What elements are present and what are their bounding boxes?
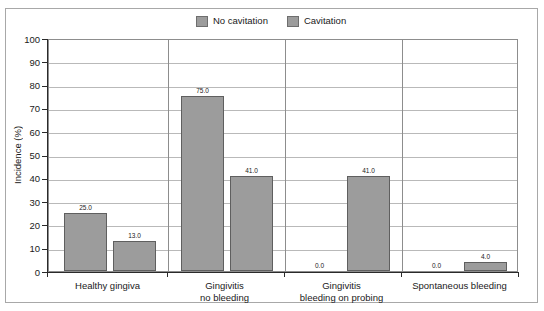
category-separator-1 (168, 40, 169, 271)
y-tick-label-20: 20 (29, 221, 40, 231)
y-tick-60 (42, 132, 47, 133)
x-category-label-gingivitis-no-bleeding: Gingivitis no bleeding (165, 280, 284, 303)
category-separator-3 (402, 40, 403, 271)
x-category-label-gingivitis-bleeding-on-probing: Gingivitis bleeding on probing (282, 280, 401, 303)
bar-label-gingivitis-no-bleeding-cavitation: 41.0 (230, 168, 273, 175)
x-category-label-line1: Gingivitis (165, 280, 284, 292)
y-tick-40 (42, 179, 47, 180)
bar-healthy-gingiva-no-cavitation (64, 213, 107, 271)
y-tick-label-60: 60 (29, 128, 40, 138)
legend-item-cavitation: Cavitation (287, 16, 346, 27)
y-axis-title: Incidence (%) (10, 112, 24, 198)
x-tick-2 (284, 272, 285, 277)
chart-legend: No cavitation Cavitation (196, 14, 346, 28)
category-separator-2 (285, 40, 286, 271)
x-axis-line (47, 272, 519, 273)
y-axis-line (47, 39, 48, 273)
gridline-90 (49, 63, 517, 64)
y-tick-10 (42, 249, 47, 250)
y-tick-label-70: 70 (29, 104, 40, 114)
x-tick-right (518, 272, 519, 277)
bar-label-gingivitis-no-bleeding-no-cavitation: 75.0 (181, 88, 224, 95)
bar-label-gingivitis-bleeding-no-cavitation: 0.0 (298, 263, 341, 270)
y-tick-100 (42, 39, 47, 40)
bar-label-gingivitis-bleeding-cavitation: 41.0 (347, 168, 390, 175)
legend-swatch-icon-no-cavitation (196, 16, 208, 27)
bar-gingivitis-no-bleeding-cavitation (230, 176, 273, 272)
gridline-50 (49, 157, 517, 158)
x-category-label-healthy-gingiva: Healthy gingiva (48, 280, 167, 292)
y-tick-label-30: 30 (29, 198, 40, 208)
y-tick-70 (42, 109, 47, 110)
plot-area: 25.0 13.0 75.0 41.0 0.0 41.0 0.0 4.0 (48, 39, 518, 272)
bar-label-healthy-gingiva-cavitation: 13.0 (113, 233, 156, 240)
x-category-label-line1: Spontaneous bleeding (399, 280, 520, 292)
bar-spontaneous-bleeding-cavitation (464, 262, 507, 271)
y-tick-label-90: 90 (29, 58, 40, 68)
bar-label-healthy-gingiva-no-cavitation: 25.0 (64, 205, 107, 212)
x-tick-3 (401, 272, 402, 277)
x-tick-left (47, 272, 48, 277)
bar-chart-figure: No cavitation Cavitation 25.0 13.0 75.0 … (0, 0, 544, 311)
gridline-70 (49, 110, 517, 111)
legend-label-no-cavitation: No cavitation (213, 16, 268, 26)
y-tick-label-40: 40 (29, 174, 40, 184)
y-tick-label-10: 10 (29, 244, 40, 254)
x-category-label-line2: no bleeding (165, 292, 284, 304)
y-tick-label-0: 0 (35, 268, 40, 278)
bar-label-spontaneous-bleeding-no-cavitation: 0.0 (415, 263, 458, 270)
legend-item-no-cavitation: No cavitation (196, 16, 268, 27)
gridline-20 (49, 226, 517, 227)
bar-gingivitis-bleeding-cavitation (347, 176, 390, 272)
legend-label-cavitation: Cavitation (304, 16, 346, 26)
bar-gingivitis-no-bleeding-no-cavitation (181, 96, 224, 271)
y-tick-30 (42, 202, 47, 203)
bar-healthy-gingiva-cavitation (113, 241, 156, 271)
x-category-label-spontaneous-bleeding: Spontaneous bleeding (399, 280, 520, 292)
x-category-label-line2: bleeding on probing (282, 292, 401, 304)
x-category-label-line1: Healthy gingiva (48, 280, 167, 292)
x-category-label-line1: Gingivitis (282, 280, 401, 292)
x-tick-1 (167, 272, 168, 277)
gridline-60 (49, 133, 517, 134)
y-tick-90 (42, 62, 47, 63)
y-tick-label-50: 50 (29, 151, 40, 161)
gridline-80 (49, 87, 517, 88)
gridline-40 (49, 180, 517, 181)
gridline-30 (49, 203, 517, 204)
y-tick-label-100: 100 (24, 35, 40, 45)
y-tick-20 (42, 225, 47, 226)
y-tick-50 (42, 156, 47, 157)
legend-swatch-icon-cavitation (287, 16, 299, 27)
y-tick-80 (42, 86, 47, 87)
bar-label-spontaneous-bleeding-cavitation: 4.0 (464, 254, 507, 261)
y-tick-label-80: 80 (29, 81, 40, 91)
